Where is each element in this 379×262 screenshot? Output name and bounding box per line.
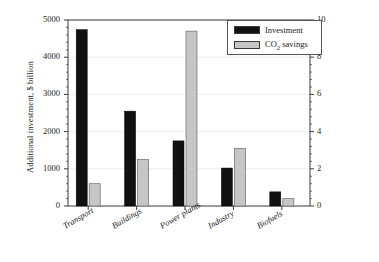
y-tick-label-right: 4 (317, 126, 341, 136)
bar-investment (270, 192, 281, 206)
bar-chart-figure: Additional investment, $ billion CO2 sav… (0, 0, 379, 262)
legend-label-investment: Investment (265, 25, 303, 35)
y-tick-label-right: 0 (317, 200, 341, 210)
bar-investment (221, 168, 232, 206)
legend-item-co2-savings: CO2 savings (234, 39, 308, 51)
bar-co2-savings (234, 148, 245, 206)
y-tick-label-left: 4000 (26, 51, 60, 61)
y-tick-label-left: 3000 (26, 88, 60, 98)
legend-label-co2-pre: CO (265, 39, 277, 49)
bar-co2-savings (186, 31, 197, 206)
y-tick-label-right: 6 (317, 88, 341, 98)
y-tick-label-left: 5000 (26, 14, 60, 24)
bar-investment (125, 111, 136, 206)
legend-swatch-co2-savings-icon (234, 41, 260, 49)
bar-investment (76, 30, 87, 206)
y-tick-label-left: 0 (26, 200, 60, 210)
y-tick-label-right: 2 (317, 163, 341, 173)
bar-co2-savings (138, 160, 149, 207)
bar-investment (173, 141, 184, 206)
bar-co2-savings (283, 199, 294, 206)
chart-legend: Investment CO2 savings (227, 20, 322, 55)
legend-item-investment: Investment (234, 25, 303, 35)
legend-swatch-investment-icon (234, 26, 260, 34)
legend-label-co2-post: savings (280, 39, 308, 49)
bar-co2-savings (89, 184, 100, 206)
y-tick-label-left: 1000 (26, 163, 60, 173)
y-tick-label-left: 2000 (26, 126, 60, 136)
legend-label-co2-savings: CO2 savings (265, 39, 308, 51)
